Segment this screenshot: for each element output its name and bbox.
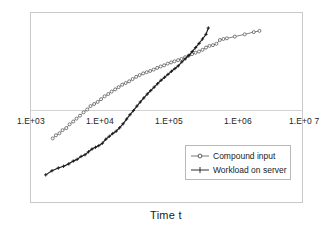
legend-label-compound-input: Compound input (213, 151, 275, 161)
legend-item-compound-input: Compound input (190, 149, 286, 163)
x-tick-label-0: 1.E+03 (17, 116, 45, 126)
chart-figure: 1.E+03 1.E+04 1.E+05 1.E+06 1.E+0 7 Time… (0, 0, 332, 233)
legend-label-workload-on-server: Workload on server (213, 165, 287, 175)
x-tick-label-2: 1.E+05 (155, 116, 183, 126)
chart-legend: Compound input Workload on server (185, 145, 291, 180)
x-tick-label-1: 1.E+04 (86, 116, 114, 126)
x-tick-label-3: 1.E+06 (224, 116, 252, 126)
x-tick-label-4: 1.E+0 7 (289, 116, 319, 126)
legend-marker-plus-icon (190, 165, 210, 175)
legend-item-workload-on-server: Workload on server (190, 163, 286, 177)
x-axis-title: Time t (0, 209, 332, 221)
legend-marker-open-circle-icon (190, 151, 210, 161)
